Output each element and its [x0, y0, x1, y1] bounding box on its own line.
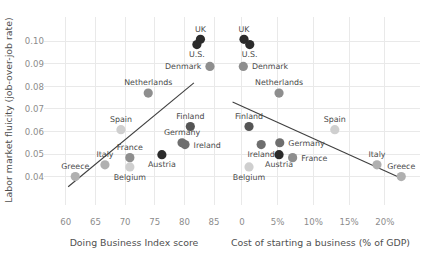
- data-point-label: Germany: [288, 139, 325, 148]
- y-tick-label: 0.08: [25, 82, 44, 92]
- data-point-marker[interactable]: [275, 138, 284, 147]
- x-axis-tick-labels: 606570758085: [60, 217, 219, 227]
- data-point[interactable]: Belgium: [114, 162, 147, 181]
- data-point-label: U.S.: [242, 50, 258, 59]
- data-point-label: Greece: [61, 162, 89, 171]
- data-point-marker[interactable]: [180, 140, 189, 149]
- data-point-label: Ireland: [248, 150, 275, 159]
- scatter-plot-figure: 6065707580850.040.050.060.070.080.090.10…: [0, 0, 437, 257]
- y-axis-tick-labels: 0.040.050.060.070.080.090.10: [25, 36, 44, 181]
- x-tick-label: 60: [60, 217, 71, 227]
- data-point-marker[interactable]: [116, 125, 125, 134]
- x-tick-label: 70: [120, 217, 131, 227]
- data-point-marker[interactable]: [71, 172, 80, 181]
- data-point-label: Greece: [387, 162, 415, 171]
- y-tick-label: 0.05: [25, 149, 44, 159]
- y-tick-label: 0.10: [25, 36, 44, 46]
- data-point-marker[interactable]: [330, 125, 339, 134]
- data-point[interactable]: Ireland: [180, 140, 220, 150]
- x-tick-label: 20%: [375, 217, 394, 227]
- data-point[interactable]: Germany: [275, 138, 325, 148]
- data-point-marker[interactable]: [205, 62, 214, 71]
- data-point[interactable]: Italy: [96, 150, 113, 169]
- data-point-marker[interactable]: [257, 140, 266, 149]
- x-axis-label: Doing Business Index score: [70, 237, 199, 248]
- x-tick-label: 0: [239, 217, 244, 227]
- x-tick-label: 5%: [271, 217, 285, 227]
- data-point-marker[interactable]: [288, 153, 297, 162]
- data-point[interactable]: Belgium: [233, 162, 266, 181]
- data-point-label: Spain: [324, 115, 346, 124]
- x-tick-label: 75: [149, 217, 160, 227]
- data-point-label: France: [117, 143, 143, 152]
- data-point[interactable]: France: [117, 143, 143, 162]
- data-point-marker[interactable]: [372, 160, 381, 169]
- data-point-marker[interactable]: [125, 153, 134, 162]
- data-point[interactable]: Italy: [368, 150, 385, 169]
- data-point-label: UK: [195, 25, 207, 34]
- data-point-marker[interactable]: [244, 122, 253, 131]
- data-point[interactable]: Ireland: [248, 140, 275, 159]
- data-point-label: Austria: [148, 160, 176, 169]
- data-point-label: Denmark: [165, 62, 202, 71]
- data-point-label: Spain: [110, 115, 132, 124]
- x-tick-label: 65: [90, 217, 101, 227]
- data-point-label: Netherlands: [124, 78, 172, 87]
- x-tick-label: 80: [179, 217, 190, 227]
- data-point-marker[interactable]: [274, 88, 283, 97]
- data-point-marker[interactable]: [100, 160, 109, 169]
- data-point[interactable]: Finland: [235, 112, 263, 131]
- data-point-label: Finland: [176, 112, 204, 121]
- data-point[interactable]: Denmark: [165, 62, 214, 72]
- data-point-label: Italy: [96, 150, 113, 159]
- data-point-marker[interactable]: [244, 162, 253, 171]
- x-tick-label: 85: [209, 217, 220, 227]
- data-point-label: UK: [239, 25, 251, 34]
- data-point-label: Netherlands: [255, 78, 303, 87]
- chart-canvas: 6065707580850.040.050.060.070.080.090.10…: [0, 0, 437, 257]
- data-point[interactable]: Austria: [148, 150, 176, 169]
- data-point[interactable]: Netherlands: [255, 78, 303, 97]
- chart-panel-left: 6065707580850.040.050.060.070.080.090.10…: [3, 17, 228, 248]
- y-tick-label: 0.07: [25, 104, 44, 114]
- data-point-marker[interactable]: [157, 150, 166, 159]
- chart-panel-right: 05%10%15%20%Cost of starting a business …: [225, 17, 420, 248]
- data-point-marker[interactable]: [144, 88, 153, 97]
- data-point[interactable]: Netherlands: [124, 78, 172, 97]
- data-point-label: Denmark: [252, 62, 289, 71]
- data-point-label: France: [301, 154, 327, 163]
- data-points: UKU.S.DenmarkNetherlandsFinlandSpainGerm…: [61, 25, 221, 182]
- data-point-marker[interactable]: [192, 40, 201, 49]
- data-point-marker[interactable]: [274, 150, 283, 159]
- data-points: UKU.S.DenmarkNetherlandsFinlandSpainGerm…: [233, 25, 416, 182]
- data-point-label: U.S.: [189, 50, 205, 59]
- x-axis-label: Cost of starting a business (% of GDP): [231, 237, 410, 248]
- y-axis-label: Labor market fluicity (job-over-job rate…: [3, 17, 14, 202]
- data-point-label: Finland: [235, 112, 263, 121]
- data-point-label: Germany: [164, 128, 201, 137]
- x-tick-label: 10%: [304, 217, 323, 227]
- data-point-label: Austria: [265, 160, 293, 169]
- data-point-label: Belgium: [114, 173, 147, 182]
- data-point-marker[interactable]: [245, 40, 254, 49]
- data-point[interactable]: Greece: [387, 162, 415, 181]
- data-point-marker[interactable]: [239, 62, 248, 71]
- data-point-marker[interactable]: [397, 172, 406, 181]
- x-tick-label: 15%: [340, 217, 359, 227]
- data-point[interactable]: Denmark: [239, 62, 289, 72]
- y-tick-label: 0.06: [25, 127, 44, 137]
- x-axis-tick-labels: 05%10%15%20%: [239, 217, 394, 227]
- data-point-label: Ireland: [194, 141, 221, 150]
- y-tick-label: 0.09: [25, 59, 44, 69]
- y-tick-label: 0.04: [25, 172, 44, 182]
- data-point[interactable]: France: [288, 153, 328, 163]
- data-point-label: Italy: [368, 150, 385, 159]
- data-point-marker[interactable]: [125, 162, 134, 171]
- data-point-label: Belgium: [233, 173, 266, 182]
